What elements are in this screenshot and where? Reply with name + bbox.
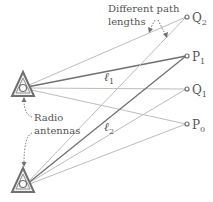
path-l1-label: ℓ1 <box>104 70 114 86</box>
path-lengths-annotation-line1: Different path <box>108 3 180 14</box>
point-p1-dot <box>185 54 189 58</box>
point-q2-label: Q2 <box>192 11 207 27</box>
point-q1-label: Q1 <box>192 83 207 99</box>
arrowhead-up-icon <box>22 97 27 102</box>
path-lengths-pointer-arrows <box>150 20 166 36</box>
point-p1-label: P1 <box>192 50 205 66</box>
diagram-canvas: Q2 P1 Q1 P0 ℓ1 ℓ2 Different path lengths… <box>0 0 213 202</box>
bottom-antenna-icon <box>12 168 34 192</box>
point-p0-dot <box>185 122 189 126</box>
point-q1-dot <box>185 87 189 91</box>
endpoint-dots <box>185 15 189 126</box>
antennas-pointer-arrows <box>24 100 32 164</box>
bottom-antenna-paths <box>27 17 186 185</box>
path-l2-label: ℓ2 <box>104 120 114 136</box>
antennas-annotation-line1: Radio <box>34 112 63 123</box>
path-lengths-annotation-line2: lengths <box>108 16 146 27</box>
arrowhead-down-icon <box>22 162 27 167</box>
point-q2-dot <box>185 15 189 19</box>
antennas-annotation-line2: antennas <box>34 125 80 136</box>
point-p0-label: P0 <box>192 118 205 134</box>
